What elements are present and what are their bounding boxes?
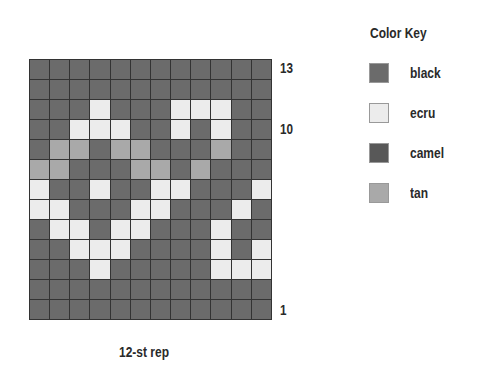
chart-cell	[30, 300, 49, 319]
key-label-tan: tan	[410, 184, 428, 201]
chart-cell	[211, 280, 230, 299]
chart-cell	[252, 220, 271, 239]
chart-cell	[211, 140, 230, 159]
chart-cell	[131, 160, 150, 179]
chart-cell	[70, 80, 89, 99]
chart-cell	[252, 260, 271, 279]
chart-cell	[191, 100, 210, 119]
chart-cell	[90, 240, 109, 259]
chart-cell	[50, 160, 69, 179]
chart-cell	[232, 260, 251, 279]
chart-cell	[151, 160, 170, 179]
chart-cell	[232, 140, 251, 159]
chart-cell	[90, 140, 109, 159]
key-label-black: black	[410, 64, 441, 81]
chart-cell	[191, 220, 210, 239]
chart-cell	[191, 200, 210, 219]
chart-caption: 12-st rep	[119, 343, 169, 360]
chart-cell	[211, 260, 230, 279]
chart-cell	[191, 260, 210, 279]
chart-cell	[131, 240, 150, 259]
chart-cell	[90, 200, 109, 219]
chart-cell	[30, 180, 49, 199]
chart-cell	[50, 100, 69, 119]
chart-cell	[252, 300, 271, 319]
chart-cell	[191, 240, 210, 259]
chart-cell	[211, 200, 230, 219]
chart-cell	[191, 180, 210, 199]
chart-cell	[70, 160, 89, 179]
chart-cell	[50, 180, 69, 199]
chart-cell	[131, 220, 150, 239]
chart-cell	[50, 240, 69, 259]
chart-cell	[151, 200, 170, 219]
chart-cell	[211, 240, 230, 259]
chart-cell	[252, 180, 271, 199]
chart-cell	[111, 100, 130, 119]
chart-cell	[252, 140, 271, 159]
chart-cell	[50, 200, 69, 219]
chart-cell	[252, 80, 271, 99]
chart-cell	[171, 300, 190, 319]
chart-cell	[252, 200, 271, 219]
chart-cell	[171, 180, 190, 199]
chart-cell	[90, 160, 109, 179]
chart-cell	[70, 60, 89, 79]
swatch-camel	[369, 143, 389, 163]
chart-cell	[232, 100, 251, 119]
chart-cell	[151, 280, 170, 299]
chart-cell	[70, 180, 89, 199]
chart-cell	[131, 200, 150, 219]
chart-cell	[211, 60, 230, 79]
chart-cell	[90, 120, 109, 139]
chart-cell	[171, 200, 190, 219]
chart-cell	[232, 300, 251, 319]
chart-cell	[191, 80, 210, 99]
key-label-camel: camel	[410, 144, 444, 161]
chart-cell	[232, 240, 251, 259]
key-label-ecru: ecru	[410, 104, 435, 121]
chart-cell	[90, 300, 109, 319]
chart-cell	[171, 100, 190, 119]
chart-cell	[171, 220, 190, 239]
chart-cell	[131, 280, 150, 299]
swatch-tan	[369, 183, 389, 203]
chart-cell	[191, 60, 210, 79]
chart-cell	[171, 280, 190, 299]
chart-cell	[70, 140, 89, 159]
chart-cell	[30, 220, 49, 239]
chart-cell	[211, 180, 230, 199]
chart-cell	[252, 280, 271, 299]
row-label-10: 10	[280, 120, 293, 137]
chart-cell	[211, 120, 230, 139]
chart-cell	[30, 60, 49, 79]
chart-cell	[151, 140, 170, 159]
swatch-ecru	[369, 103, 389, 123]
chart-cell	[232, 120, 251, 139]
chart-cell	[30, 120, 49, 139]
chart-cell	[30, 140, 49, 159]
chart-cell	[252, 60, 271, 79]
chart-cell	[50, 140, 69, 159]
chart-cell	[111, 200, 130, 219]
chart-cell	[90, 80, 109, 99]
chart-cell	[90, 60, 109, 79]
chart-cell	[111, 280, 130, 299]
chart-cell	[171, 80, 190, 99]
chart-cell	[211, 300, 230, 319]
chart-cell	[191, 300, 210, 319]
chart-cell	[111, 60, 130, 79]
chart-cell	[131, 80, 150, 99]
chart-cell	[171, 240, 190, 259]
chart-cell	[30, 240, 49, 259]
chart-cell	[211, 80, 230, 99]
chart-cell	[30, 260, 49, 279]
chart-cell	[232, 280, 251, 299]
chart-cell	[111, 120, 130, 139]
chart-cell	[191, 160, 210, 179]
chart-cell	[131, 140, 150, 159]
chart-cell	[30, 100, 49, 119]
chart-cell	[70, 200, 89, 219]
chart-cell	[232, 160, 251, 179]
chart-cell	[70, 280, 89, 299]
